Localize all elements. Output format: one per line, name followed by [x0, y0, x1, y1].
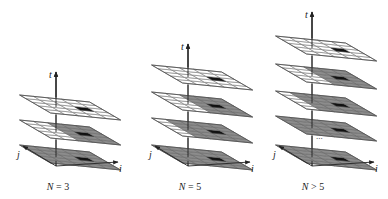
j-axis-label: j	[15, 149, 20, 160]
grid-layer-3	[276, 64, 377, 89]
grid-layer-0	[276, 145, 377, 170]
panel-2: tijN = 5	[147, 41, 254, 192]
grid-layer-1	[276, 116, 377, 141]
t-axis-label: t	[181, 41, 184, 52]
grid-layer-2	[20, 95, 121, 120]
i-axis-label: i	[375, 163, 378, 174]
grid-layer-1	[20, 120, 121, 145]
grid-layer-2	[276, 91, 377, 116]
panel-caption: N > 5	[301, 181, 324, 192]
i-axis-label: i	[251, 163, 254, 174]
t-axis-label: t	[49, 69, 52, 80]
j-axis-label: j	[271, 149, 276, 160]
grid-layer-0	[20, 145, 121, 170]
grid-layer-1	[152, 118, 253, 143]
i-axis-label: i	[119, 163, 122, 174]
panel-1: tijN = 3	[15, 69, 122, 192]
panel-caption: N = 3	[46, 181, 69, 192]
panel-caption: N = 5	[178, 181, 201, 192]
t-axis-label: t	[305, 9, 308, 20]
grid-layer-4	[276, 36, 377, 61]
grid-layer-3	[152, 65, 253, 90]
ellipsis-more-layers: ...	[316, 131, 323, 141]
grid-layer-2	[152, 92, 253, 117]
panel-3: tij...N > 5	[271, 9, 378, 192]
grid-layer-0	[152, 145, 253, 170]
j-axis-label: j	[147, 149, 152, 160]
temporal-grid-diagram: tijN = 3tijN = 5tij...N > 5	[0, 0, 388, 199]
